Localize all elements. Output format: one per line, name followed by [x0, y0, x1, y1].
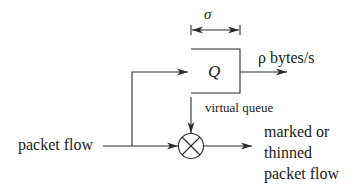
- queue-label: Q: [208, 63, 220, 80]
- rate-label: ρ bytes/s: [258, 50, 314, 66]
- output-flow-label: marked or thinned packet flow: [264, 121, 339, 184]
- output-line-3: packet flow: [264, 163, 339, 184]
- branch-to-queue: [132, 72, 188, 146]
- virtual-queue-label: virtual queue: [205, 101, 273, 114]
- output-line-2: thinned: [264, 142, 339, 163]
- marker-node: [179, 134, 204, 159]
- input-flow-label: packet flow: [18, 137, 93, 153]
- sigma-width-arrow: [191, 25, 240, 35]
- sigma-label: σ: [204, 7, 211, 22]
- output-line-1: marked or: [264, 121, 339, 142]
